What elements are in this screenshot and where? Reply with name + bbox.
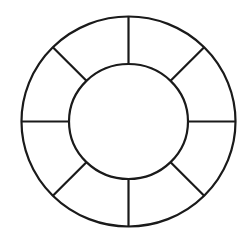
spoke-line (171, 162, 205, 196)
segmented-ring-diagram (0, 0, 252, 239)
spokes (22, 17, 236, 227)
spoke-line (53, 47, 87, 81)
inner-circle (69, 64, 188, 179)
spoke-line (171, 47, 205, 81)
spoke-line (53, 162, 87, 196)
